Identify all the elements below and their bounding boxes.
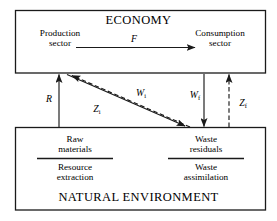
flow-label-R: R [42,94,56,105]
waste-assimilation-line2: assimilation [166,173,246,183]
flow-label-Wf-sub: f [198,94,200,101]
economy-title: ECONOMY [0,14,277,28]
waste-residuals-line2: residuals [166,145,246,155]
production-sector-line2: sector [20,39,100,49]
flow-arrow-Zi [72,76,190,128]
flow-label-Zf: Zf [232,98,254,109]
flow-label-Wi-base: W [136,87,144,98]
consumption-sector-line2: sector [178,39,262,49]
flow-arrow-Wi [67,75,185,127]
natural-environment-title: NATURAL ENVIRONMENT [0,191,277,205]
raw-materials-line2: materials [35,145,115,155]
diagram-canvas: ECONOMY Production sector Consumption se… [0,0,277,221]
flow-label-F: F [126,34,142,45]
flow-label-Wi: Wi [130,88,152,99]
flow-label-Zi-base: Z [93,103,98,114]
flow-label-Wi-sub: i [144,92,146,99]
resource-extraction-line2: extraction [35,173,115,183]
flow-label-Wf: Wf [184,90,206,101]
flow-label-Zi: Zi [86,104,108,115]
flow-label-Zi-sub: i [99,108,101,115]
flow-label-Zf-base: Z [239,97,244,108]
flow-label-Zf-sub: f [245,102,247,109]
flow-label-Wf-base: W [190,89,198,100]
